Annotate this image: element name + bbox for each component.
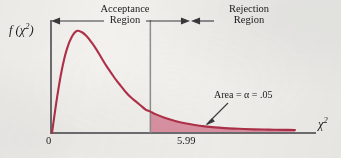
rejection-region-arrow bbox=[193, 18, 215, 24]
area-alpha-callout-label: Area = α = .05 bbox=[214, 90, 272, 101]
chi-square-distribution-figure: f (χ2) χ2 Acceptance Region Rejection Re… bbox=[0, 0, 341, 158]
acceptance-region-label-line1: Acceptance bbox=[88, 3, 162, 14]
y-axis-title-base: f (χ bbox=[9, 23, 25, 37]
rejection-region-label-line1: Rejection bbox=[216, 3, 282, 14]
rejection-region-label-line2: Region bbox=[216, 14, 282, 25]
x-axis-tick-label-origin: 0 bbox=[46, 135, 51, 146]
y-axis-title-tail: ) bbox=[30, 23, 34, 37]
x-axis-tick-label-critical-value: 5.99 bbox=[177, 135, 195, 146]
rejection-region-label: Rejection Region bbox=[216, 3, 282, 25]
chi-square-density-curve bbox=[52, 31, 295, 133]
y-axis-title: f (χ2) bbox=[9, 22, 34, 37]
area-callout-leader-line bbox=[207, 103, 229, 125]
x-axis-title: χ2 bbox=[318, 116, 328, 131]
x-axis-title-exponent: 2 bbox=[324, 115, 328, 125]
acceptance-region-label-line2: Region bbox=[88, 14, 162, 25]
acceptance-region-label: Acceptance Region bbox=[88, 3, 162, 25]
